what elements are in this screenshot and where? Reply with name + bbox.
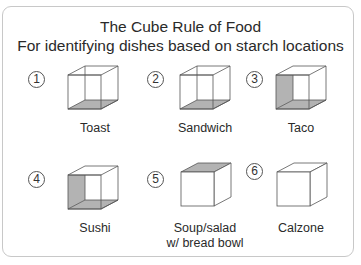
item-number-1: 1 [28, 71, 45, 88]
item-label-sandwich: Sandwich [150, 121, 260, 136]
item-label-sushi: Sushi [40, 221, 150, 236]
diagram-subtitle: For identifying dishes based on starch l… [0, 37, 361, 55]
item-label-soup-salad-line2: w/ bread bowl [150, 236, 260, 251]
cube-icon-taco [276, 66, 328, 111]
item-number-4: 4 [28, 171, 45, 188]
item-number-3: 3 [246, 71, 263, 88]
item-label-soup-salad: Soup/salad [150, 221, 260, 236]
item-label-calzone: Calzone [246, 221, 356, 236]
diagram-title: The Cube Rule of Food [0, 18, 361, 36]
item-label-toast: Toast [40, 121, 150, 136]
cube-icon-sushi [68, 166, 120, 211]
cube-icon-sandwich [180, 66, 232, 111]
cube-icon-calzone [277, 163, 329, 208]
cube-icon-toast [68, 66, 120, 111]
cube-icon-soup-bread-bowl [181, 163, 233, 208]
item-number-6: 6 [246, 163, 263, 180]
item-number-5: 5 [147, 171, 164, 188]
item-label-taco: Taco [246, 121, 356, 136]
item-number-2: 2 [147, 71, 164, 88]
